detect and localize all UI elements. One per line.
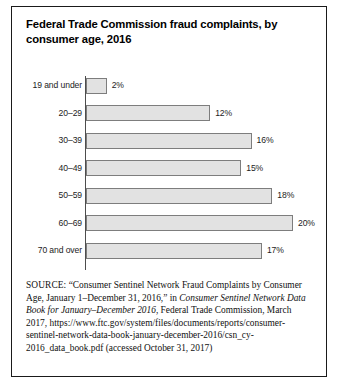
bar-row: 70 and over17% bbox=[12, 242, 326, 259]
bar-value-label: 12% bbox=[215, 105, 232, 122]
source-label: SOURCE: bbox=[26, 280, 66, 290]
bar bbox=[86, 105, 210, 121]
figure-frame: Federal Trade Commission fraud complaint… bbox=[11, 6, 327, 377]
bar-category-label: 20–29 bbox=[12, 105, 82, 122]
bar-chart-plot-area: 19 and under2%20–2912%30–3916%40–4915%50… bbox=[12, 69, 326, 271]
bar-category-label: 60–69 bbox=[12, 215, 82, 232]
bar-value-label: 20% bbox=[298, 215, 315, 232]
bar-category-label: 19 and under bbox=[12, 77, 82, 94]
bar-category-label: 40–49 bbox=[12, 160, 82, 177]
bar-value-label: 17% bbox=[267, 242, 284, 259]
bar-category-label: 30–39 bbox=[12, 132, 82, 149]
bar bbox=[86, 133, 252, 149]
bar-value-label: 15% bbox=[246, 160, 263, 177]
bar-row: 20–2912% bbox=[12, 105, 326, 122]
bar-category-label: 70 and over bbox=[12, 242, 82, 259]
bar bbox=[86, 243, 262, 259]
bar bbox=[86, 78, 107, 94]
bar bbox=[86, 160, 241, 176]
bar-row: 50–5918% bbox=[12, 187, 326, 204]
bar-row: 40–4915% bbox=[12, 160, 326, 177]
bar-value-label: 2% bbox=[112, 77, 124, 94]
bar-value-label: 18% bbox=[277, 187, 294, 204]
bar bbox=[86, 188, 272, 204]
bar-category-label: 50–59 bbox=[12, 187, 82, 204]
chart-title: Federal Trade Commission fraud complaint… bbox=[26, 17, 314, 46]
bar-row: 30–3916% bbox=[12, 132, 326, 149]
bar-value-label: 16% bbox=[257, 132, 274, 149]
bar-row: 60–6920% bbox=[12, 215, 326, 232]
bar-row: 19 and under2% bbox=[12, 77, 326, 94]
bar bbox=[86, 215, 293, 231]
source-note: SOURCE: “Consumer Sentinel Network Fraud… bbox=[26, 279, 310, 355]
